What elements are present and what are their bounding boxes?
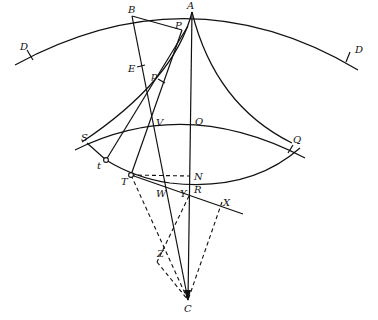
tangent-line-t-x (131, 175, 243, 214)
label-d-right: D (354, 44, 363, 55)
point-T (129, 173, 134, 178)
cusp-curve-right (192, 12, 292, 143)
label-z: Z (156, 248, 165, 259)
outer-arc (15, 19, 358, 70)
label-b: B (127, 4, 135, 15)
tick-e (137, 65, 145, 67)
label-d-left: D (19, 41, 28, 52)
line-a-c (188, 12, 192, 300)
label-q: Q (293, 134, 301, 145)
label-t-upper: T (121, 176, 129, 187)
label-t-small: t (97, 160, 102, 171)
line-s-t (87, 143, 106, 160)
dashed-x-c (188, 202, 222, 300)
dashed-z-c (157, 262, 188, 300)
label-x: X (222, 197, 231, 208)
label-r: R (193, 184, 202, 195)
label-s: S (81, 132, 88, 143)
tick-d-right (346, 52, 350, 62)
label-n: N (193, 171, 204, 182)
label-o: O (195, 116, 203, 127)
label-y: Y (180, 188, 188, 199)
label-p-lower: p (151, 70, 158, 81)
label-a: A (186, 0, 194, 11)
label-v: V (156, 117, 165, 128)
label-w: W (156, 188, 167, 199)
line-a-t (106, 26, 188, 160)
cusp-curve-left (82, 12, 192, 142)
lower-arc (106, 148, 300, 185)
label-p-upper: P (174, 20, 182, 31)
label-c: C (184, 303, 192, 314)
label-e: E (127, 63, 136, 74)
point-t-small (104, 158, 109, 163)
geometric-diagram: A B P D D E p V O Q S t T N W Y R X Z C (0, 0, 378, 320)
